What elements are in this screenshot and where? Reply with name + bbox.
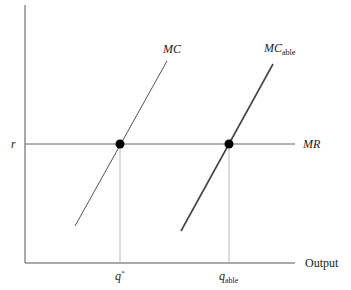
- q-able-label: qable: [219, 270, 238, 285]
- mc-able-label: MCable: [264, 42, 295, 57]
- q-star-label: q*: [115, 270, 125, 282]
- equilibrium-point-mc-able: [225, 140, 234, 149]
- equilibrium-point-mc: [116, 140, 125, 149]
- r-label: r: [11, 138, 16, 150]
- marginal-cost-diagram: MC MCable r MR Output q* qable: [0, 0, 351, 290]
- output-label: Output: [305, 257, 338, 269]
- mr-label: MR: [303, 138, 320, 150]
- mc-label: MC: [163, 43, 181, 55]
